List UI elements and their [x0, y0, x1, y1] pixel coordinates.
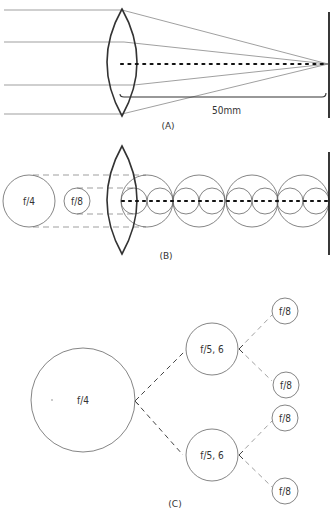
- leaf-connectors: [239, 315, 272, 487]
- panel-b: f/4 f/8: [3, 146, 329, 261]
- root-center-dot: [51, 399, 53, 401]
- caption-c: (C): [168, 499, 181, 509]
- leaf-f8-label-3: f/8: [279, 413, 291, 424]
- panel-a: 50mm (A): [4, 9, 329, 131]
- leaf-f8-label-1: f/8: [279, 306, 291, 317]
- caption-a: (A): [161, 121, 174, 131]
- aperture-f8-label: f/8: [71, 196, 83, 207]
- root-connectors: [135, 350, 186, 455]
- leaf-f8-label-4: f/8: [279, 486, 291, 497]
- root-f4-label: f/4: [77, 395, 89, 406]
- aperture-f4-label: f/4: [23, 196, 35, 207]
- focal-distance-bracket: [120, 93, 326, 97]
- mid-f56-label-top: f/5, 6: [200, 344, 224, 355]
- mid-f56-label-bottom: f/5, 6: [200, 450, 224, 461]
- leaf-f8-label-2: f/8: [280, 380, 292, 391]
- junction-marks: [135, 345, 243, 459]
- lens-a: [107, 9, 137, 116]
- caption-b: (B): [159, 251, 172, 261]
- converging-rays: [122, 10, 328, 114]
- aperture-diagram: 50mm (A) f/4 f/8: [0, 0, 333, 516]
- panel-c: f/4 f/5, 6 f/5, 6 f/8 f/8 f/8 f/8 (C): [31, 298, 299, 509]
- focal-distance-label: 50mm: [212, 105, 241, 116]
